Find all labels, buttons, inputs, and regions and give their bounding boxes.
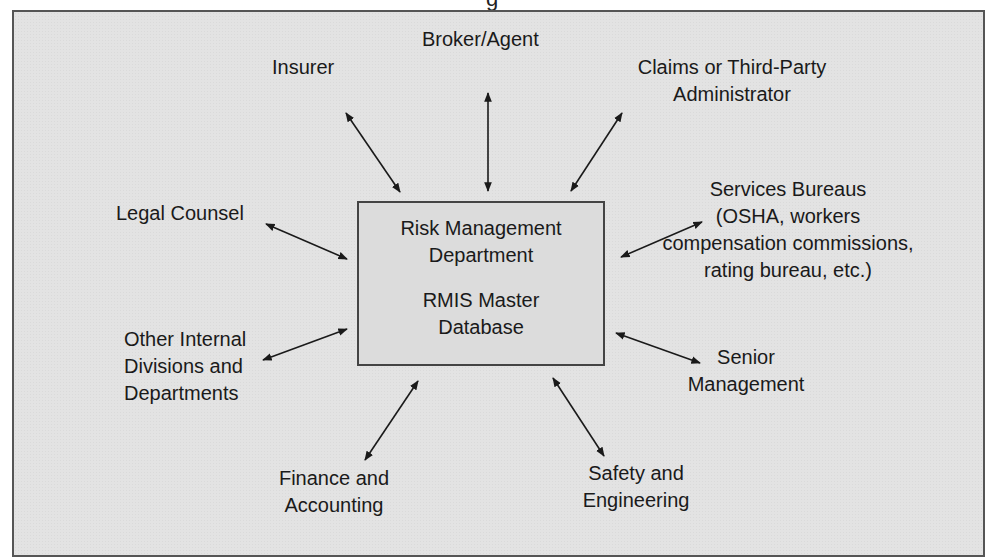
node-broker-agent: Broker/Agent xyxy=(422,26,539,53)
center-line-4: Database xyxy=(359,314,603,341)
node-insurer: Insurer xyxy=(272,54,334,81)
arrow-claims xyxy=(571,113,622,191)
arrow-legal xyxy=(266,224,347,259)
node-services-bureaus: Services Bureaus (OSHA, workers compensa… xyxy=(648,176,928,284)
arrow-insurer xyxy=(346,113,400,192)
risk-management-box: Risk Management Department RMIS Master D… xyxy=(357,201,605,366)
center-line-2: Department xyxy=(359,242,603,269)
node-legal-counsel: Legal Counsel xyxy=(116,200,244,227)
node-finance-accounting: Finance and Accounting xyxy=(274,465,394,519)
arrow-safety xyxy=(553,378,604,456)
node-claims-administrator: Claims or Third-Party Administrator xyxy=(612,54,852,108)
center-line-3: RMIS Master xyxy=(359,287,603,314)
arrow-other xyxy=(263,329,347,360)
center-line-1: Risk Management xyxy=(359,215,603,242)
node-senior-management: Senior Management xyxy=(676,344,816,398)
arrow-finance xyxy=(365,381,418,460)
node-other-internal-divisions: Other Internal Divisions and Departments xyxy=(124,326,246,407)
node-safety-engineering: Safety and Engineering xyxy=(576,460,696,514)
